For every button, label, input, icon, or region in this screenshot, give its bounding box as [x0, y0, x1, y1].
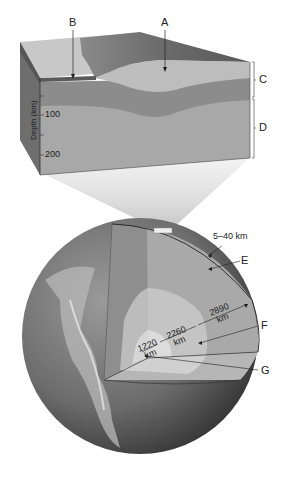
label-c: C [259, 74, 267, 85]
label-f: F [261, 320, 268, 331]
bracket-c [252, 62, 256, 97]
label-d: D [259, 122, 267, 133]
label-e: E [241, 255, 248, 266]
crust-thickness-label: 5–40 km [213, 232, 248, 241]
depth-axis-title: Depth (km) [29, 100, 38, 140]
depth-tick-200: 200 [45, 150, 60, 159]
depth-tick-100: 100 [45, 110, 60, 119]
label-g: G [261, 365, 270, 376]
label-b: B [69, 17, 76, 28]
earth-structure-diagram [0, 0, 285, 489]
label-a: A [161, 17, 168, 28]
crust-sample-marker [154, 228, 172, 233]
bracket-d [252, 99, 256, 158]
